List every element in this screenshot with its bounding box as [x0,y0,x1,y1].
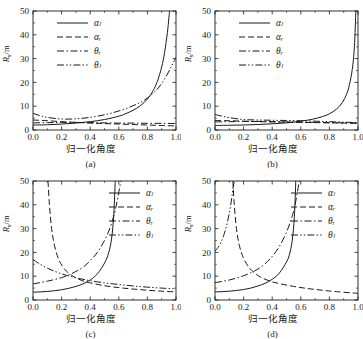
svg-text:50: 50 [202,6,212,16]
svg-text:αₗ: αₗ [328,188,336,198]
svg-text:10: 10 [20,101,30,111]
svg-text:αᵣ: αᵣ [94,32,101,42]
svg-text:θᵣ: θᵣ [328,216,335,226]
svg-text:50: 50 [20,6,30,16]
panel-b: 0.00.20.40.60.81.001020304050αₗαᵣθᵣθₗ Rs… [182,0,363,169]
figure-container: 0.00.20.40.60.81.001020304050αₗαᵣθᵣθₗ Rs… [0,0,363,339]
panel-a-ylabel: Rs/m [1,50,14,62]
svg-text:40: 40 [202,30,212,40]
panel-a: 0.00.20.40.60.81.001020304050αₗαᵣθᵣθₗ Rs… [0,0,181,169]
svg-text:0: 0 [25,125,30,135]
panel-b-caption: (b) [182,159,363,169]
panel-c-caption: (c) [0,329,181,339]
panel-c-xlabel: 归一化角度 [0,311,181,325]
svg-text:10: 10 [20,271,30,281]
svg-text:0: 0 [207,125,212,135]
svg-text:30: 30 [20,54,30,64]
svg-text:40: 40 [20,30,30,40]
panel-b-xlabel: 归一化角度 [182,141,363,155]
svg-text:10: 10 [202,271,212,281]
svg-text:30: 30 [202,54,212,64]
svg-text:αₗ: αₗ [146,188,154,198]
svg-text:40: 40 [20,200,30,210]
panel-c-ylabel: Rs/m [1,220,14,232]
svg-text:θₗ: θₗ [328,230,336,240]
svg-text:20: 20 [20,78,30,88]
svg-text:40: 40 [202,200,212,210]
svg-text:50: 50 [20,176,30,186]
svg-text:10: 10 [202,101,212,111]
panel-b-ylabel: Rs/m [183,50,196,62]
svg-text:θₗ: θₗ [276,60,284,70]
svg-text:50: 50 [202,176,212,186]
svg-text:αᵣ: αᵣ [146,202,153,212]
svg-text:0: 0 [25,295,30,305]
svg-text:αₗ: αₗ [276,18,284,28]
svg-text:θᵣ: θᵣ [276,46,283,56]
svg-text:20: 20 [202,78,212,88]
svg-text:αᵣ: αᵣ [276,32,283,42]
svg-text:30: 30 [20,224,30,234]
svg-text:30: 30 [202,224,212,234]
svg-text:0: 0 [207,295,212,305]
svg-text:θᵣ: θᵣ [94,46,101,56]
panel-d-caption: (d) [182,329,363,339]
panel-d-xlabel: 归一化角度 [182,311,363,325]
svg-text:αᵣ: αᵣ [328,202,335,212]
svg-text:θₗ: θₗ [146,230,154,240]
svg-text:20: 20 [202,248,212,258]
svg-text:θₗ: θₗ [94,60,102,70]
svg-text:αₗ: αₗ [94,18,102,28]
panel-c: 0.00.20.40.60.81.001020304050αₗαᵣθᵣθₗ Rs… [0,170,181,339]
panel-d-ylabel: Rs/m [183,220,196,232]
svg-text:θᵣ: θᵣ [146,216,153,226]
svg-text:20: 20 [20,248,30,258]
panel-a-caption: (a) [0,159,181,169]
panel-a-xlabel: 归一化角度 [0,141,181,155]
panel-d: 0.00.20.40.60.81.001020304050αₗαᵣθᵣθₗ Rs… [182,170,363,339]
